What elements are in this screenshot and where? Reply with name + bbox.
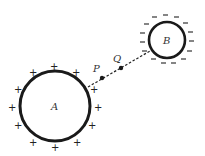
svg-text:+: + — [8, 102, 16, 113]
point-p-label: P — [92, 63, 100, 74]
svg-text:+: + — [29, 67, 37, 78]
point-q-label: Q — [113, 53, 121, 64]
svg-text:+: + — [29, 137, 37, 148]
svg-text:+: + — [14, 84, 22, 95]
sphere-a-label: A — [50, 101, 58, 112]
point-p-dot — [100, 76, 104, 80]
svg-text:+: + — [88, 120, 96, 131]
point-q-dot — [119, 66, 123, 70]
svg-text:+: + — [73, 137, 81, 148]
sphere-b-label: B — [162, 35, 170, 46]
sphere-b: B — [140, 15, 194, 63]
svg-text:+: + — [94, 102, 102, 113]
point-p: P — [92, 63, 104, 80]
sphere-a: A + + + + + + + + + + + + — [8, 61, 102, 153]
svg-text:+: + — [90, 84, 98, 95]
svg-text:+: + — [51, 142, 59, 153]
svg-text:+: + — [72, 67, 80, 78]
point-q: Q — [113, 53, 123, 70]
svg-text:+: + — [50, 61, 58, 72]
svg-text:+: + — [14, 120, 22, 131]
electrostatics-diagram: A + + + + + + + + + + + + B — [0, 0, 205, 156]
